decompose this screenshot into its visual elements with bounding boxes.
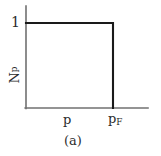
figure-container: 1 Np p pF (a) bbox=[0, 0, 161, 156]
x-axis-label: p bbox=[63, 113, 71, 126]
y-axis-label-subscript: p bbox=[10, 66, 19, 72]
y-axis-tick-label-1: 1 bbox=[11, 15, 20, 29]
fermi-momentum-subscript: F bbox=[116, 117, 122, 127]
figure-caption: (a) bbox=[64, 134, 82, 147]
step-function-curve bbox=[26, 23, 113, 108]
y-axis-label-main: N bbox=[8, 72, 21, 83]
x-axis-tick-label-fermi-momentum: pF bbox=[108, 112, 122, 126]
y-axis-label: Np bbox=[0, 64, 29, 86]
